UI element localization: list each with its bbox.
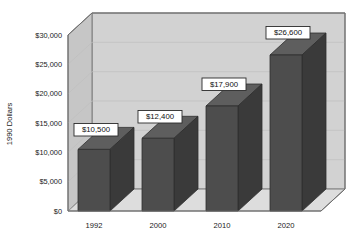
bar-side-face <box>302 33 326 211</box>
bar-front-face <box>270 55 302 211</box>
bar-2010 <box>206 84 262 211</box>
data-label-2020: $26,600 <box>266 27 310 40</box>
bar-front-face <box>78 149 110 211</box>
y-tick-label: $20,000 <box>35 89 62 98</box>
y-tick-label: $10,000 <box>35 148 62 157</box>
y-tick-label: $0 <box>54 207 62 216</box>
y-axis-title: 1990 Dollars <box>5 102 14 145</box>
y-axis-tick-labels: $0 $5,000 $10,000 $15,000 $20,000 $25,00… <box>35 31 62 216</box>
bar-front-face <box>142 138 174 211</box>
x-axis-category-labels: 1992 2000 2010 2020 <box>86 221 295 230</box>
data-label-text: $26,600 <box>274 28 303 37</box>
bar-2000 <box>142 116 198 211</box>
data-label-2010: $17,900 <box>202 78 246 91</box>
x-tick-label: 2000 <box>150 221 167 230</box>
x-tick-label: 2020 <box>278 221 295 230</box>
y-tick-label: $5,000 <box>39 177 62 186</box>
data-label-text: $10,500 <box>82 125 111 134</box>
data-label-text: $12,400 <box>146 112 175 121</box>
chart-canvas: $0 $5,000 $10,000 $15,000 $20,000 $25,00… <box>0 0 354 238</box>
data-label-2000: $12,400 <box>138 111 182 124</box>
bar-front-face <box>206 106 238 211</box>
y-tick-label: $30,000 <box>35 31 62 40</box>
x-tick-label: 2010 <box>214 221 231 230</box>
data-label-text: $17,900 <box>210 80 239 89</box>
data-label-1992: $10,500 <box>74 124 118 137</box>
bar-2020 <box>270 33 326 211</box>
y-tick-label: $25,000 <box>35 60 62 69</box>
bar-chart-3d: $0 $5,000 $10,000 $15,000 $20,000 $25,00… <box>0 0 354 238</box>
bar-side-face <box>238 84 262 211</box>
x-tick-label: 1992 <box>86 221 103 230</box>
y-tick-label: $15,000 <box>35 119 62 128</box>
